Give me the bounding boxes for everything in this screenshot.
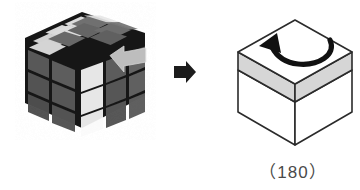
schematic-cube-body: [238, 20, 352, 145]
figure-canvas: （180）: [0, 0, 360, 190]
caption-text: （180）: [238, 158, 348, 183]
